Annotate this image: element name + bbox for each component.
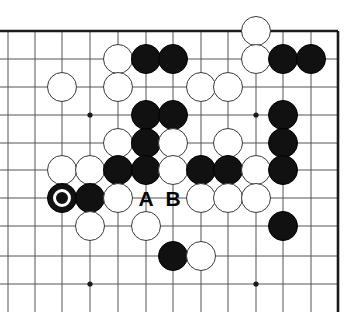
point-label-b: B: [159, 188, 187, 209]
point-label-a: A: [132, 188, 160, 209]
black-stone[interactable]: [296, 44, 326, 74]
white-stone[interactable]: [47, 155, 77, 185]
black-stone[interactable]: [268, 211, 298, 241]
black-stone[interactable]: [213, 155, 243, 185]
white-stone[interactable]: [241, 44, 271, 74]
star-point: [253, 281, 258, 286]
star-point: [87, 112, 92, 117]
white-stone[interactable]: [75, 155, 105, 185]
white-stone[interactable]: [103, 128, 133, 158]
star-point: [87, 281, 92, 286]
white-stone[interactable]: [241, 16, 271, 46]
black-stone[interactable]: [268, 128, 298, 158]
white-stone[interactable]: [213, 72, 243, 102]
white-stone[interactable]: [131, 211, 161, 241]
black-stone[interactable]: [131, 44, 161, 74]
black-stone[interactable]: [186, 155, 216, 185]
white-stone[interactable]: [75, 211, 105, 241]
white-stone[interactable]: [103, 72, 133, 102]
white-stone[interactable]: [103, 44, 133, 74]
black-stone[interactable]: [158, 44, 188, 74]
black-stone[interactable]: [47, 183, 77, 213]
black-stone[interactable]: [268, 100, 298, 130]
white-stone[interactable]: [213, 183, 243, 213]
black-stone[interactable]: [131, 128, 161, 158]
black-stone[interactable]: [103, 155, 133, 185]
go-board-diagram: AB: [0, 0, 360, 318]
white-stone[interactable]: [241, 183, 271, 213]
white-stone[interactable]: [186, 72, 216, 102]
black-stone[interactable]: [75, 183, 105, 213]
black-stone[interactable]: [268, 44, 298, 74]
white-stone[interactable]: [213, 128, 243, 158]
black-stone[interactable]: [158, 241, 188, 271]
white-stone[interactable]: [158, 128, 188, 158]
white-stone[interactable]: [186, 241, 216, 271]
white-stone[interactable]: [186, 183, 216, 213]
white-stone[interactable]: [241, 155, 271, 185]
star-point: [253, 112, 258, 117]
black-stone[interactable]: [131, 100, 161, 130]
white-stone[interactable]: [103, 183, 133, 213]
black-stone[interactable]: [268, 155, 298, 185]
white-stone[interactable]: [158, 155, 188, 185]
black-stone[interactable]: [131, 155, 161, 185]
black-stone[interactable]: [158, 100, 188, 130]
white-stone[interactable]: [47, 72, 77, 102]
